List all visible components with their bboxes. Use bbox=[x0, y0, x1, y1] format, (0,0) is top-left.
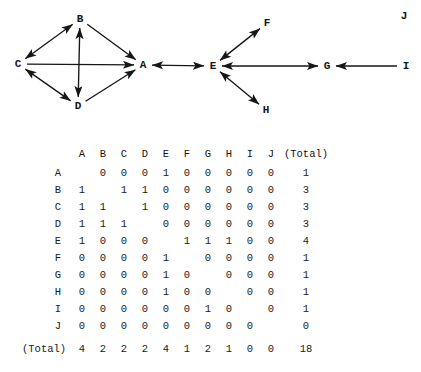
matrix-column-total-a: 4 bbox=[79, 341, 85, 358]
matrix-row-a: A 0001000001 bbox=[0, 165, 421, 182]
matrix-cell-g-i: 0 bbox=[247, 267, 253, 284]
matrix-cell-f-d: 0 bbox=[142, 250, 148, 267]
matrix-column-total-f: 1 bbox=[184, 341, 190, 358]
matrix-row-f: F00001 00001 bbox=[0, 250, 421, 267]
matrix-cell-e-h: 1 bbox=[226, 233, 232, 250]
graph-node-b: B bbox=[77, 14, 84, 25]
matrix-cell-i-g: 1 bbox=[205, 301, 211, 318]
matrix-column-header-i: I bbox=[247, 146, 253, 163]
graph-edge-e-h bbox=[220, 72, 259, 105]
graph-node-g: G bbox=[324, 61, 331, 72]
matrix-row-total-f: 1 bbox=[303, 250, 309, 267]
matrix-cell-c-j: 0 bbox=[268, 199, 274, 216]
matrix-column-total-h: 1 bbox=[226, 341, 232, 358]
matrix-cell-j-f: 0 bbox=[184, 318, 190, 335]
graph-node-a: A bbox=[140, 60, 147, 71]
matrix-cell-b-c: 1 bbox=[121, 182, 127, 199]
matrix-cell-i-f: 0 bbox=[184, 301, 190, 318]
graph-edge-c-a bbox=[27, 64, 134, 65]
matrix-cell-e-j: 0 bbox=[268, 233, 274, 250]
graph-edge-b-c bbox=[25, 24, 72, 58]
matrix-cell-d-h: 0 bbox=[226, 216, 232, 233]
matrix-cell-a-h: 0 bbox=[226, 165, 232, 182]
matrix-row-total-i: 1 bbox=[303, 301, 309, 318]
matrix-row-total-e: 4 bbox=[303, 233, 309, 250]
matrix-row-header-a: A bbox=[55, 165, 61, 182]
matrix-row-total-d: 3 bbox=[303, 216, 309, 233]
matrix-cell-e-a: 1 bbox=[79, 233, 85, 250]
matrix-cell-h-g: 0 bbox=[205, 284, 211, 301]
matrix-cell-f-h: 0 bbox=[226, 250, 232, 267]
matrix-cell-j-b: 0 bbox=[100, 318, 106, 335]
matrix-cell-a-c: 0 bbox=[121, 165, 127, 182]
matrix-cell-f-i: 0 bbox=[247, 250, 253, 267]
matrix-cell-b-a: 1 bbox=[79, 182, 85, 199]
matrix-cell-i-a: 0 bbox=[79, 301, 85, 318]
matrix-cell-a-d: 0 bbox=[142, 165, 148, 182]
graph-edge-e-f bbox=[220, 29, 260, 61]
matrix-cell-g-h: 0 bbox=[226, 267, 232, 284]
matrix-cell-i-c: 0 bbox=[121, 301, 127, 318]
matrix-cell-j-c: 0 bbox=[121, 318, 127, 335]
matrix-column-header-c: C bbox=[121, 146, 127, 163]
matrix-row-total-c: 3 bbox=[303, 199, 309, 216]
matrix-cell-g-e: 1 bbox=[163, 267, 169, 284]
matrix-cell-c-i: 0 bbox=[247, 199, 253, 216]
matrix-row-h: H0000100 001 bbox=[0, 284, 421, 301]
matrix-cell-h-c: 0 bbox=[121, 284, 127, 301]
matrix-cell-d-f: 0 bbox=[184, 216, 190, 233]
matrix-column-header-a: A bbox=[79, 146, 85, 163]
matrix-cell-h-e: 1 bbox=[163, 284, 169, 301]
matrix-cell-j-i: 0 bbox=[247, 318, 253, 335]
matrix-cell-j-d: 0 bbox=[142, 318, 148, 335]
matrix-row-header-g: G bbox=[55, 267, 61, 284]
graph-node-h: H bbox=[263, 105, 270, 116]
matrix-column-header-d: D bbox=[142, 146, 148, 163]
matrix-column-header-b: B bbox=[100, 146, 106, 163]
matrix-cell-c-h: 0 bbox=[226, 199, 232, 216]
matrix-column-header-g: G bbox=[205, 146, 211, 163]
matrix-cell-d-b: 1 bbox=[100, 216, 106, 233]
matrix-cell-b-g: 0 bbox=[205, 182, 211, 199]
graph-edge-a-e bbox=[152, 65, 204, 66]
matrix-cell-i-j: 0 bbox=[268, 301, 274, 318]
matrix-row-total-j: 0 bbox=[303, 318, 309, 335]
matrix-cell-h-b: 0 bbox=[100, 284, 106, 301]
matrix-row-total-a: 1 bbox=[303, 165, 309, 182]
matrix-cell-g-f: 0 bbox=[184, 267, 190, 284]
matrix-cell-j-a: 0 bbox=[79, 318, 85, 335]
matrix-column-total-b: 2 bbox=[100, 341, 106, 358]
matrix-row-total-g: 1 bbox=[303, 267, 309, 284]
matrix-cell-a-g: 0 bbox=[205, 165, 211, 182]
matrix-cell-c-d: 1 bbox=[142, 199, 148, 216]
matrix-cell-d-g: 0 bbox=[205, 216, 211, 233]
matrix-cell-d-e: 0 bbox=[163, 216, 169, 233]
graph-node-i: I bbox=[403, 61, 410, 72]
matrix-cell-d-c: 1 bbox=[121, 216, 127, 233]
directed-graph-diagram: A B C D E F G H I J bbox=[0, 0, 421, 130]
matrix-cell-f-g: 0 bbox=[205, 250, 211, 267]
matrix-row-e: E1000 111004 bbox=[0, 233, 421, 250]
matrix-row-c: C11 10000003 bbox=[0, 199, 421, 216]
graph-node-d: D bbox=[75, 101, 82, 112]
matrix-cell-h-j: 0 bbox=[268, 284, 274, 301]
matrix-grand-total: 18 bbox=[300, 341, 313, 358]
matrix-cell-g-d: 0 bbox=[142, 267, 148, 284]
adjacency-matrix: ABCDEFGHIJ(Total) A 0001000001B1 1100000… bbox=[0, 132, 421, 372]
matrix-cell-c-b: 1 bbox=[100, 199, 106, 216]
matrix-cell-i-b: 0 bbox=[100, 301, 106, 318]
matrix-cell-d-j: 0 bbox=[268, 216, 274, 233]
matrix-cell-e-g: 1 bbox=[205, 233, 211, 250]
matrix-header-row: ABCDEFGHIJ(Total) bbox=[0, 146, 421, 163]
matrix-column-header-j: J bbox=[268, 146, 274, 163]
matrix-cell-g-b: 0 bbox=[100, 267, 106, 284]
matrix-column-total-i: 0 bbox=[247, 341, 253, 358]
matrix-column-total-c: 2 bbox=[121, 341, 127, 358]
matrix-row-total-b: 3 bbox=[303, 182, 309, 199]
matrix-cell-b-d: 1 bbox=[142, 182, 148, 199]
matrix-cell-a-e: 1 bbox=[163, 165, 169, 182]
matrix-cell-h-a: 0 bbox=[79, 284, 85, 301]
matrix-row-b: B1 110000003 bbox=[0, 182, 421, 199]
matrix-cell-j-g: 0 bbox=[205, 318, 211, 335]
matrix-row-g: G000010 0001 bbox=[0, 267, 421, 284]
